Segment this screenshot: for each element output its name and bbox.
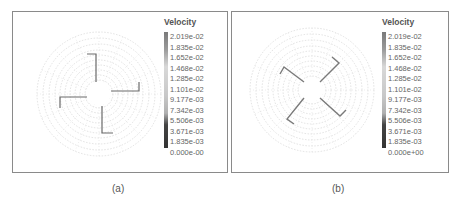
tick-label: 1.652e-02 bbox=[388, 53, 422, 62]
velocity-plot-a bbox=[29, 24, 169, 164]
tick-label: 1.468e-02 bbox=[170, 64, 204, 73]
figure-panel-a: Velocity 2.019e-02 1.835e-02 1.652e-02 1… bbox=[12, 11, 228, 173]
colorbar bbox=[382, 32, 386, 148]
tick-label: 1.835e-03 bbox=[388, 137, 422, 146]
legend-title: Velocity bbox=[382, 17, 414, 27]
legend-title: Velocity bbox=[164, 17, 196, 27]
hub bbox=[301, 79, 323, 101]
tick-label: 1.835e-02 bbox=[170, 43, 204, 52]
tick-label: 3.671e-03 bbox=[388, 127, 422, 136]
tick-label: 9.177e-03 bbox=[170, 95, 204, 104]
tick-label: 7.342e-03 bbox=[388, 106, 422, 115]
velocity-plot-b bbox=[242, 20, 382, 160]
caption-a: (a) bbox=[112, 183, 124, 194]
tick-label: 1.101e-02 bbox=[170, 85, 204, 94]
tick-label: 2.019e-02 bbox=[388, 32, 422, 41]
tick-label: 1.101e-02 bbox=[388, 85, 422, 94]
colorbar bbox=[164, 32, 168, 148]
figure-panel-b: Velocity 2.019e-02 1.835e-02 1.652e-02 1… bbox=[231, 11, 449, 173]
tick-label: 1.285e-02 bbox=[388, 74, 422, 83]
tick-label: 7.342e-03 bbox=[170, 106, 204, 115]
tick-label: 9.177e-03 bbox=[388, 95, 422, 104]
tick-label: 5.506e-03 bbox=[170, 116, 204, 125]
tick-label: 3.671e-03 bbox=[170, 127, 204, 136]
tick-label: 0.000e+00 bbox=[388, 148, 424, 157]
hub bbox=[88, 83, 110, 105]
tick-label: 0.000e-00 bbox=[170, 148, 204, 157]
tick-label: 1.835e-02 bbox=[388, 43, 422, 52]
tick-label: 2.019e-02 bbox=[170, 32, 204, 41]
caption-b: (b) bbox=[332, 183, 344, 194]
tick-label: 1.835e-03 bbox=[170, 137, 204, 146]
tick-label: 1.285e-02 bbox=[170, 74, 204, 83]
tick-label: 1.652e-02 bbox=[170, 53, 204, 62]
tick-label: 5.506e-03 bbox=[388, 116, 422, 125]
tick-label: 1.468e-02 bbox=[388, 64, 422, 73]
